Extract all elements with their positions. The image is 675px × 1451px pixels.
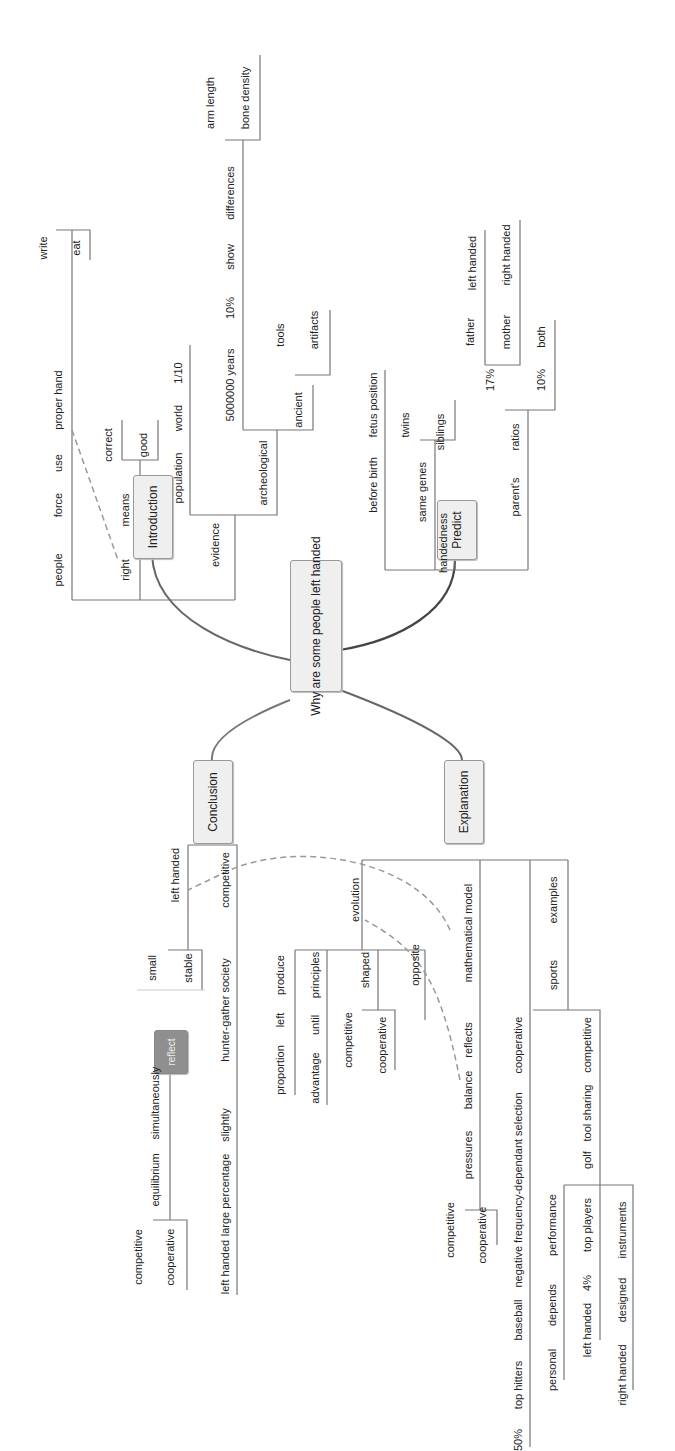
- mindmap-node[interactable]: father: [464, 318, 476, 346]
- mindmap-node[interactable]: competitive: [219, 852, 231, 908]
- mindmap-node[interactable]: world: [172, 405, 184, 431]
- mindmap-node[interactable]: competitive: [342, 1012, 354, 1068]
- mindmap-node[interactable]: balance: [462, 1071, 474, 1110]
- mindmap-node[interactable]: 10%: [224, 297, 236, 319]
- central-topic[interactable]: Why are some people left handed: [290, 560, 342, 692]
- mindmap-node[interactable]: competitive: [581, 1017, 593, 1073]
- mindmap-node[interactable]: good: [137, 433, 149, 457]
- mindmap-node[interactable]: small: [146, 955, 158, 981]
- mindmap-node[interactable]: proportion: [274, 1045, 286, 1095]
- mindmap-node[interactable]: designed: [616, 1278, 628, 1323]
- mindmap-node[interactable]: left handed: [466, 236, 478, 290]
- mindmap-node[interactable]: archeological: [257, 441, 269, 506]
- mindmap-node[interactable]: right handed: [500, 224, 512, 285]
- mindmap-node[interactable]: top players: [581, 1198, 593, 1252]
- mindmap-node[interactable]: population: [172, 453, 184, 504]
- branch-conclusion[interactable]: Conclusion: [193, 760, 233, 844]
- mindmap-node[interactable]: slightly: [219, 1108, 231, 1142]
- mindmap-node[interactable]: write: [37, 236, 49, 259]
- mindmap-node[interactable]: 5000000 years: [224, 349, 236, 422]
- mindmap-node[interactable]: cooperative: [376, 1017, 388, 1074]
- branch-label: Introduction: [146, 486, 160, 549]
- mindmap-node[interactable]: evolution: [349, 878, 361, 922]
- mindmap-node[interactable]: eat: [70, 240, 82, 255]
- mindmap-node[interactable]: mother: [500, 315, 512, 349]
- central-topic-label: Why are some people left handed: [309, 536, 323, 715]
- branch-label: Predict: [450, 511, 464, 548]
- mindmap-node[interactable]: left handed: [169, 848, 181, 902]
- mindmap-node[interactable]: differences: [224, 166, 236, 220]
- mindmap-node[interactable]: before birth: [367, 457, 379, 513]
- mindmap-node[interactable]: ratios: [509, 424, 521, 451]
- mindmap-node[interactable]: hunter-gather society: [219, 958, 231, 1061]
- mindmap-node[interactable]: produce: [274, 955, 286, 995]
- mindmap-node[interactable]: people: [52, 553, 64, 586]
- mindmap-node[interactable]: cooperative: [512, 1017, 524, 1074]
- mindmap-node[interactable]: correct: [102, 428, 114, 462]
- mindmap-node[interactable]: top hitters: [512, 1361, 524, 1409]
- mindmap-node[interactable]: left handed: [219, 1240, 231, 1294]
- mindmap-node[interactable]: examples: [547, 876, 559, 923]
- mindmap-node[interactable]: competitive: [444, 1202, 456, 1258]
- mindmap-node[interactable]: depends: [546, 1284, 558, 1326]
- mindmap-node[interactable]: baseball: [512, 1300, 524, 1341]
- mindmap-node[interactable]: left handed: [581, 1303, 593, 1357]
- mindmap-node[interactable]: mathematical model: [462, 884, 474, 982]
- mindmap-node[interactable]: stable: [182, 953, 194, 982]
- branch-label: Explanation: [457, 771, 471, 834]
- mindmap-node[interactable]: pressures: [462, 1131, 474, 1179]
- mindmap-node[interactable]: equilibrium: [149, 1153, 161, 1206]
- mindmap-node[interactable]: golf: [581, 1151, 593, 1169]
- mindmap-node[interactable]: sports: [547, 960, 559, 990]
- reflect-label: reflect: [166, 1038, 177, 1065]
- mindmap-node[interactable]: artifacts: [308, 311, 320, 350]
- mindmap-node[interactable]: tools: [274, 323, 286, 346]
- mindmap-node[interactable]: reflects: [462, 1022, 474, 1057]
- mindmap-node[interactable]: cooperative: [476, 1207, 488, 1264]
- mindmap-node[interactable]: right handed: [616, 1344, 628, 1405]
- mindmap-node[interactable]: parent's: [509, 478, 521, 517]
- mindmap-node[interactable]: means: [119, 493, 131, 526]
- mindmap-node[interactable]: twins: [399, 412, 411, 437]
- mindmap-node[interactable]: arm length: [204, 77, 216, 129]
- mindmap-node[interactable]: 17%: [484, 369, 496, 391]
- mindmap-node[interactable]: left: [274, 1013, 286, 1028]
- mindmap-node[interactable]: personal: [546, 1349, 558, 1391]
- mindmap-node[interactable]: bone density: [239, 67, 251, 129]
- mindmap-node[interactable]: competitive: [132, 1229, 144, 1285]
- mindmap-node[interactable]: siblings: [434, 414, 446, 451]
- mindmap-node[interactable]: same genes: [416, 462, 428, 522]
- mindmap-node[interactable]: handedness: [437, 513, 449, 573]
- mindmap-node[interactable]: tool sharing: [581, 1085, 593, 1142]
- branch-introduction[interactable]: Introduction: [133, 475, 173, 559]
- mindmap-node[interactable]: advantage: [309, 1052, 321, 1103]
- mindmap-node[interactable]: 1/10: [172, 362, 184, 383]
- mindmap-node[interactable]: negative frequency-dependant selection: [512, 1092, 524, 1287]
- mindmap-node[interactable]: force: [52, 493, 64, 517]
- mindmap-node[interactable]: show: [224, 244, 236, 270]
- mindmap-node[interactable]: large percentage: [219, 1154, 231, 1237]
- mindmap-node[interactable]: 10%: [535, 369, 547, 391]
- mindmap-node[interactable]: cooperative: [164, 1229, 176, 1286]
- mindmap-node[interactable]: principles: [309, 952, 321, 998]
- mindmap-node[interactable]: instruments: [616, 1202, 628, 1259]
- mindmap-node[interactable]: shaped: [359, 952, 371, 988]
- mindmap-node[interactable]: right: [119, 559, 131, 580]
- mindmap-node[interactable]: ancient: [292, 392, 304, 427]
- mindmap-node[interactable]: performance: [546, 1194, 558, 1256]
- mindmap-node[interactable]: both: [535, 326, 547, 347]
- mindmap-node[interactable]: opposite: [409, 944, 421, 986]
- mindmap-node[interactable]: fetus position: [367, 373, 379, 438]
- mindmap-node[interactable]: simultaneously: [149, 1067, 161, 1140]
- branch-label: Conclusion: [206, 772, 220, 831]
- mindmap-node[interactable]: 4%: [581, 1275, 593, 1291]
- branch-explanation[interactable]: Explanation: [444, 760, 484, 844]
- mindmap-node[interactable]: proper hand: [52, 370, 64, 429]
- mindmap-node[interactable]: until: [309, 1015, 321, 1035]
- mindmap-node[interactable]: 50%: [512, 1429, 524, 1451]
- mindmap-node[interactable]: use: [52, 454, 64, 472]
- mindmap-node[interactable]: evidence: [209, 523, 221, 567]
